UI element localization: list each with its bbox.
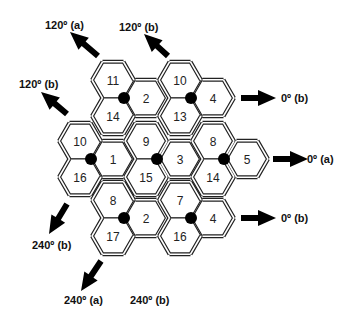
cell-number: 2 — [143, 212, 150, 226]
cell-number: 8 — [210, 135, 217, 149]
cell-number: 16 — [73, 171, 87, 185]
base-station-dot — [118, 92, 130, 104]
cell-number: 13 — [173, 110, 187, 124]
cell-number: 2 — [143, 92, 150, 106]
cell-number: 10 — [73, 135, 87, 149]
direction-label: 120º (b) — [19, 78, 59, 90]
cell-number: 5 — [244, 153, 251, 167]
direction-arrow-120-icon — [144, 34, 170, 58]
direction-arrow-0-icon — [241, 90, 276, 106]
base-station-dot — [85, 153, 97, 165]
cell-number: 4 — [210, 92, 217, 106]
direction-label: 120º (a) — [45, 19, 84, 31]
hex-reuse-diagram: 1114210134101619153814581727164 120º (a)… — [0, 0, 350, 326]
direction-label: 120º (b) — [119, 21, 159, 33]
cell-number: 14 — [106, 110, 120, 124]
base-station-dot — [185, 92, 197, 104]
direction-arrow-120-icon — [41, 92, 69, 116]
cell-number: 9 — [143, 135, 150, 149]
direction-label: 0º (b) — [281, 92, 309, 104]
direction-label: 0º (a) — [307, 153, 334, 165]
direction-arrow-120-icon — [70, 32, 100, 58]
base-station-dot — [218, 153, 230, 165]
base-station-dot — [185, 212, 197, 224]
cell-number: 1 — [110, 153, 117, 167]
base-station-dot — [151, 153, 163, 165]
cell-number: 11 — [107, 74, 120, 88]
direction-label: 240º (a) — [64, 294, 103, 306]
direction-label: 240º (b) — [130, 294, 170, 306]
cell-number: 7 — [177, 194, 184, 208]
cell-number: 16 — [173, 230, 187, 244]
direction-label: 240º (b) — [32, 239, 72, 251]
cell-number: 10 — [173, 74, 187, 88]
direction-arrow-240-icon — [81, 259, 103, 291]
cell-number: 15 — [139, 171, 153, 185]
diagram-svg: 1114210134101619153814581727164 120º (a)… — [0, 0, 350, 326]
cell-number: 4 — [210, 212, 217, 226]
cell-number: 8 — [110, 194, 117, 208]
cell-number: 3 — [177, 153, 184, 167]
direction-arrow-0-icon — [241, 210, 276, 226]
base-station-dot — [118, 212, 130, 224]
direction-label: 0º (b) — [281, 212, 309, 224]
direction-arrow-240-icon — [49, 202, 70, 234]
cell-number: 14 — [206, 171, 220, 185]
cell-number: 17 — [106, 230, 120, 244]
direction-arrow-0-icon — [273, 151, 308, 167]
